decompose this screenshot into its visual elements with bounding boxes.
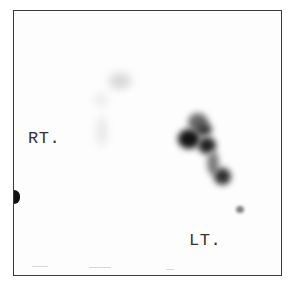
uptake-primary-focus <box>178 129 200 149</box>
scan-artifact <box>89 267 111 268</box>
faint-uptake-trail <box>94 93 108 107</box>
uptake-small-spot <box>236 206 244 213</box>
side-marker <box>14 190 20 204</box>
right-side-label: RT. <box>28 129 60 148</box>
scan-frame: RT. LT. <box>13 10 282 276</box>
scan-artifact <box>166 269 174 270</box>
uptake-lower-focus <box>214 168 231 185</box>
faint-uptake-upper <box>109 73 131 89</box>
scan-artifact <box>32 266 48 267</box>
faint-uptake-mid <box>97 116 107 146</box>
left-side-label: LT. <box>189 231 221 250</box>
